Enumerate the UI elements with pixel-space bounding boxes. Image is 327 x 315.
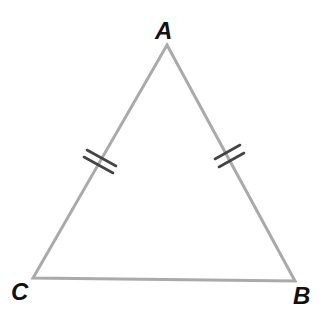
- vertex-label-c: C: [11, 280, 28, 304]
- triangle-diagram: [0, 0, 327, 315]
- vertex-label-a: A: [155, 19, 172, 43]
- triangle-abc: [33, 45, 295, 281]
- vertex-label-b: B: [293, 284, 310, 308]
- side-ab-congruence-ticks: [215, 145, 244, 167]
